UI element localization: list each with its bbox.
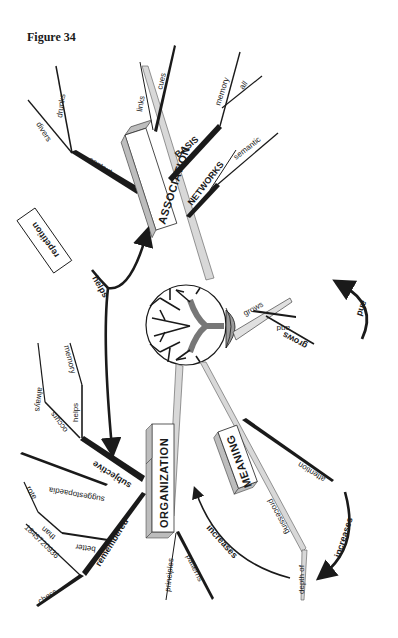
context-label: context [87, 155, 114, 177]
better-label: better [74, 542, 96, 554]
principles-label: principles [163, 558, 175, 593]
grows-branch: grows and grows and [233, 285, 370, 351]
rote-label: rote [24, 485, 39, 502]
association-branch: ASSOCIATION links cues context drunks di… [28, 45, 278, 280]
occurs-label: occurs [48, 410, 69, 434]
links-label: links [135, 95, 147, 112]
organization-label: ORGANIZATION [158, 438, 170, 528]
remembered-label: remembered [93, 517, 130, 568]
mind-map: ASSOCIATION links cues context drunks di… [0, 0, 398, 638]
depth-of-label: depth of [297, 564, 306, 594]
chess-label: chess [36, 587, 58, 606]
helps-label: helps [71, 403, 80, 422]
increases-right-label: increases [332, 516, 354, 559]
subjective-label: subjective [90, 459, 133, 491]
increases-left-label: increases [205, 523, 240, 561]
all-label: all [237, 79, 249, 91]
organization-branch: ORGANIZATION subjective occurs always he… [20, 343, 214, 607]
memory-label: memory [213, 76, 230, 106]
semantic-label: semantic [232, 135, 263, 162]
meaning-branch: MEANING attention processing depth of in… [196, 362, 355, 600]
memory-org-label: memory [62, 344, 78, 374]
always-label: always [33, 387, 45, 412]
divers-label: divers [34, 120, 53, 143]
suggestopaedia-label: suggestopaedia [48, 485, 106, 504]
tree-icon [146, 285, 235, 365]
patterns-label: patterns [184, 553, 205, 583]
